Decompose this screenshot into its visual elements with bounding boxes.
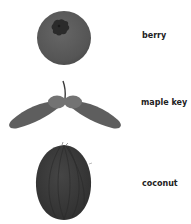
maple-key-icon (9, 81, 121, 129)
berry-label: berry (142, 31, 166, 40)
coconut-icon (36, 142, 92, 220)
berry-icon (37, 11, 91, 65)
coconut-label: coconut (142, 179, 178, 188)
maple-key-label: maple key (141, 98, 187, 107)
